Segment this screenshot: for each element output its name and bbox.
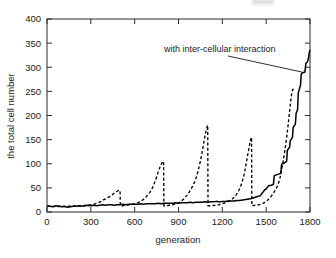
- chart-figure: 050100150200250300350400 030060090012001…: [0, 0, 336, 258]
- chart-canvas: 050100150200250300350400 030060090012001…: [0, 0, 336, 258]
- y-tick-label: 50: [30, 182, 41, 193]
- x-tick-label: 900: [171, 216, 187, 227]
- x-tick-label: 600: [127, 216, 143, 227]
- y-axis-title: the total cell number: [5, 73, 16, 159]
- annotation-label: with inter-cellular interaction: [163, 44, 276, 54]
- x-tick-label: 1800: [299, 216, 320, 227]
- x-tick-label: 300: [83, 216, 99, 227]
- x-tick-label: 1500: [256, 216, 277, 227]
- y-tick-label: 150: [25, 134, 41, 145]
- x-axis-tick-labels: 0300600900120015001800: [44, 216, 320, 227]
- y-tick-label: 250: [25, 86, 41, 97]
- y-tick-label: 350: [25, 38, 41, 49]
- x-axis-title: generation: [156, 234, 201, 245]
- y-axis-tick-labels: 050100150200250300350400: [25, 13, 41, 217]
- y-tick-label: 100: [25, 158, 41, 169]
- y-tick-label: 400: [25, 13, 41, 24]
- x-tick-label: 1200: [212, 216, 233, 227]
- y-tick-label: 300: [25, 62, 41, 73]
- x-tick-label: 0: [44, 216, 49, 227]
- y-tick-label: 0: [36, 206, 41, 217]
- y-tick-label: 200: [25, 110, 41, 121]
